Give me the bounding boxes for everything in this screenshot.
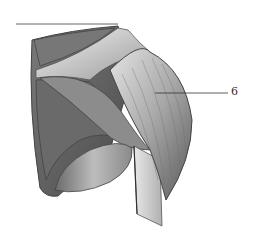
label-6: 6 (231, 85, 238, 98)
shoulder-illustration (0, 0, 256, 235)
anatomical-figure: 6 (0, 0, 256, 235)
